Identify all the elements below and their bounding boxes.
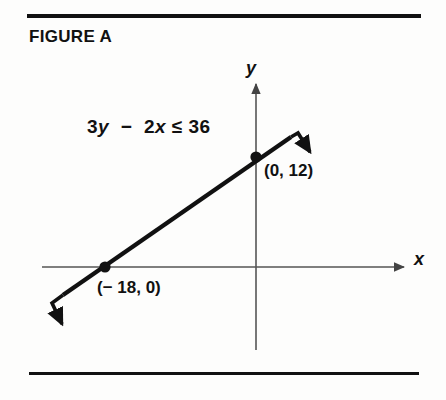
equation-constant: 36 <box>189 116 211 137</box>
y-axis-label: y <box>246 58 256 79</box>
equation-coefficient-y: 3 <box>87 116 98 137</box>
equation-variable-y: y <box>98 116 109 137</box>
equation-relation-symbol: ≤ <box>172 116 183 137</box>
equation-variable-x: x <box>155 116 166 137</box>
equation-coefficient-x: 2 <box>144 116 155 137</box>
figure-panel: FIGURE A 3y − <box>0 0 446 400</box>
bottom-divider-rule <box>29 372 419 375</box>
point-label-y-intercept: (0, 12) <box>264 161 313 181</box>
point-marker-x-intercept <box>99 261 110 272</box>
coordinate-plot <box>0 0 446 400</box>
inequality-annotation: 3y − 2x ≤ 36 <box>87 116 211 138</box>
point-label-x-intercept: (− 18, 0) <box>97 278 161 298</box>
equation-minus-operator: − <box>121 116 133 137</box>
point-marker-y-intercept <box>250 151 261 162</box>
x-axis-label: x <box>414 249 424 270</box>
